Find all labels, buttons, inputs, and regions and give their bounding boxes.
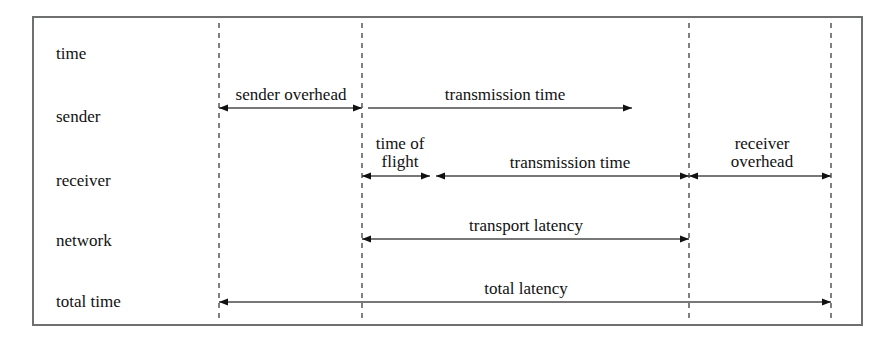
arrow-head-left-total_latency: [219, 298, 228, 305]
arrow-head-right-time_of_flight: [421, 172, 430, 179]
arrow-head-right-total_latency: [822, 298, 831, 305]
row-label-network: network: [56, 232, 112, 249]
measure-sender_overhead: [219, 104, 362, 111]
measure-label-line: receiver: [731, 135, 793, 153]
diagram-canvas: [0, 0, 894, 346]
measure-label-line: transport latency: [469, 217, 583, 235]
row-label-sender: sender: [56, 108, 100, 125]
measure-label-line: sender overhead: [236, 86, 347, 104]
row-label-total_time: total time: [56, 293, 121, 310]
measure-label-line: transmission time: [510, 154, 630, 172]
measure-label-transport_latency: transport latency: [469, 217, 583, 235]
arrow-head-right-receiver_transmission_time: [680, 172, 689, 179]
measure-label-line: transmission time: [445, 86, 565, 104]
arrow-head-left-transport_latency: [362, 235, 371, 242]
arrow-head-right-sender_transmission_time: [623, 104, 632, 111]
arrow-head-left-time_of_flight: [362, 172, 371, 179]
measure-label-sender_transmission_time: transmission time: [445, 86, 565, 104]
measure-label-total_latency: total latency: [484, 280, 568, 298]
measure-label-time_of_flight: time offlight: [376, 135, 425, 172]
timing-diagram: timesenderreceivernetworktotal time send…: [0, 0, 894, 346]
arrow-head-right-transport_latency: [680, 235, 689, 242]
row-label-time: time: [56, 45, 86, 62]
measure-receiver_transmission_time: [436, 172, 689, 179]
arrow-head-right-sender_overhead: [353, 104, 362, 111]
arrow-head-left-sender_overhead: [219, 104, 228, 111]
measure-sender_transmission_time: [368, 104, 632, 111]
measure-label-line: time of: [376, 135, 425, 153]
arrow-head-left-receiver_transmission_time: [436, 172, 445, 179]
measure-label-line: overhead: [731, 153, 793, 171]
measure-label-line: total latency: [484, 280, 568, 298]
row-label-receiver: receiver: [56, 172, 111, 189]
measure-receiver_overhead: [689, 172, 831, 179]
measure-time_of_flight: [362, 172, 430, 179]
measure-label-receiver_overhead: receiveroverhead: [731, 135, 793, 172]
arrow-head-left-receiver_overhead: [689, 172, 698, 179]
arrow-head-right-receiver_overhead: [822, 172, 831, 179]
measure-label-receiver_transmission_time: transmission time: [510, 154, 630, 172]
measure-label-sender_overhead: sender overhead: [236, 86, 347, 104]
measure-transport_latency: [362, 235, 689, 242]
measure-total_latency: [219, 298, 831, 305]
measure-label-line: flight: [376, 153, 425, 171]
